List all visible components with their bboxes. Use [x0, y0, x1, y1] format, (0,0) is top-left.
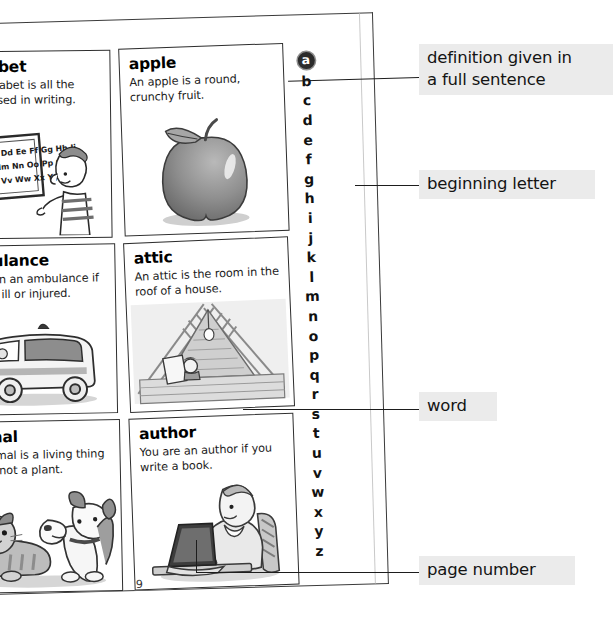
entry-card-animal[interactable]: animal An animal is a living thing that …	[0, 419, 123, 594]
alphabet-index-letter-z[interactable]: z	[309, 541, 330, 561]
alphabet-index-letter-x[interactable]: x	[308, 502, 329, 522]
alphabet-index-letter-a[interactable]: a	[297, 52, 314, 69]
alphabet-index-letter-i[interactable]: i	[300, 208, 321, 228]
callout-definition-given-in-a-full-sentence: definition given in a full sentence	[419, 44, 613, 95]
alphabet-index-letter-w[interactable]: w	[308, 482, 329, 502]
alphabet-index-letter-h[interactable]: h	[299, 188, 320, 208]
illustration-boy-at-blackboard: Aa Bb Cc Dd Ee Ff Gg Hh Ii Jj Kk Ll Mm N…	[0, 115, 112, 237]
illustration-apple	[121, 108, 288, 234]
alphabet-index-letter-o[interactable]: o	[303, 325, 324, 345]
definition-text: The alphabet is all the letters used in …	[0, 78, 102, 110]
leader-line-page-stub	[196, 540, 197, 573]
alphabet-index-letter-c[interactable]: c	[297, 90, 318, 110]
paper-edge	[358, 14, 375, 584]
entry-grid: alphabet The alphabet is all the letters…	[0, 41, 297, 570]
entry-card-author[interactable]: author You are an author if you write a …	[128, 413, 299, 591]
alphabet-index-letter-r[interactable]: r	[305, 384, 326, 404]
illustration-ambulance	[0, 290, 117, 413]
illustration-attic	[126, 283, 294, 410]
definition-text: An apple is a round, crunchy fruit.	[129, 71, 276, 106]
leader-line-word	[243, 409, 419, 410]
alphabet-index-letter-u[interactable]: u	[307, 443, 328, 463]
headword: apple	[128, 51, 275, 74]
alphabet-index-letter-l[interactable]: l	[302, 267, 323, 287]
headword: ambulance	[0, 251, 107, 271]
entry-card-attic[interactable]: attic An attic is the room in the roof o…	[123, 236, 295, 413]
alphabet-index-letter-y[interactable]: y	[309, 521, 330, 541]
alphabet-index-letter-p[interactable]: p	[304, 345, 325, 365]
alphabet-index-letter-f[interactable]: f	[298, 149, 319, 169]
alphabet-index-letter-j[interactable]: j	[301, 228, 322, 248]
alphabet-index-letter-s[interactable]: s	[305, 404, 326, 424]
alphabet-index-letter-e[interactable]: e	[298, 130, 319, 150]
page-number: 9	[136, 578, 143, 591]
alphabet-index-letter-d[interactable]: d	[297, 110, 318, 130]
alphabet-index-letter-n[interactable]: n	[303, 306, 324, 326]
callout-word: word	[419, 392, 497, 421]
callout-beginning-letter: beginning letter	[419, 170, 595, 199]
dictionary-page: alphabet The alphabet is all the letters…	[0, 18, 380, 598]
entry-card-apple[interactable]: apple An apple is a round, crunchy fruit…	[118, 43, 289, 237]
entry-card-alphabet[interactable]: alphabet The alphabet is all the letters…	[0, 50, 113, 240]
alphabet-index-letter-m[interactable]: m	[302, 286, 323, 306]
alphabet-index-letter-v[interactable]: v	[307, 463, 328, 483]
headword: animal	[0, 427, 111, 448]
alphabet-index-letter-g[interactable]: g	[299, 169, 320, 189]
alphabet-index-letter-k[interactable]: k	[301, 247, 322, 267]
headword: alphabet	[0, 58, 102, 78]
leader-line-beginning-letter	[355, 185, 419, 186]
alphabet-index-letter-t[interactable]: t	[306, 423, 327, 443]
alphabet-index-letter-q[interactable]: q	[304, 365, 325, 385]
leader-line-page-number	[196, 572, 419, 573]
illustration-cat-and-dog	[0, 468, 122, 591]
illustration-author-typing	[131, 462, 298, 588]
callout-page-number: page number	[419, 556, 575, 585]
entry-card-ambulance[interactable]: ambulance You go in an ambulance if you …	[0, 243, 118, 416]
